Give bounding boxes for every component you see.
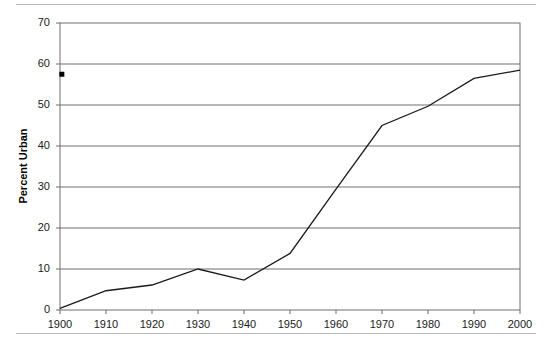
x-tick-label: 1900 — [37, 318, 83, 330]
x-tick-label: 1950 — [267, 318, 313, 330]
plot-frame — [60, 23, 520, 310]
y-tick-label: 50 — [26, 98, 50, 110]
x-tick-label: 1990 — [451, 318, 497, 330]
x-tick-label: 1960 — [313, 318, 359, 330]
x-tick-label: 1910 — [83, 318, 129, 330]
point-markers-group — [59, 72, 64, 77]
data-line-series — [60, 70, 520, 308]
chart-figure: Percent Urban 010203040506070 1900191019… — [0, 0, 552, 346]
y-tick-label: 70 — [26, 16, 50, 28]
x-tick-label: 2000 — [497, 318, 543, 330]
x-tick-label: 1930 — [175, 318, 221, 330]
plot-area — [0, 0, 552, 346]
tick-marks-group — [56, 23, 520, 314]
x-tick-label: 1920 — [129, 318, 175, 330]
x-tick-label: 1940 — [221, 318, 267, 330]
x-tick-label: 1980 — [405, 318, 451, 330]
stray-square-marker — [59, 72, 64, 77]
x-tick-label: 1970 — [359, 318, 405, 330]
y-tick-label: 0 — [26, 303, 50, 315]
y-tick-label: 30 — [26, 180, 50, 192]
y-tick-label: 10 — [26, 262, 50, 274]
y-tick-label: 60 — [26, 57, 50, 69]
gridlines-group — [60, 64, 520, 269]
y-tick-label: 40 — [26, 139, 50, 151]
y-tick-label: 20 — [26, 221, 50, 233]
